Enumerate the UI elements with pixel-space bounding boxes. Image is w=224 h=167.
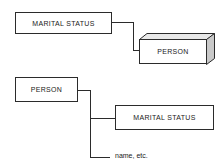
connector-top-horizontal-1 <box>112 22 134 23</box>
diagram-canvas: MARITAL STATUS PERSON PERSON MARITAL STA… <box>0 0 224 167</box>
connector-top-vertical <box>133 22 134 50</box>
box-label: MARITAL STATUS <box>133 114 195 121</box>
box-person-bottom[interactable]: PERSON <box>15 77 78 102</box>
box-label: PERSON <box>31 86 62 93</box>
box-marital-status-bottom[interactable]: MARITAL STATUS <box>115 105 214 130</box>
box-3d-front-face: PERSON <box>139 39 207 64</box>
box-label: PERSON <box>157 48 188 55</box>
box-label: MARITAL STATUS <box>32 20 94 27</box>
connector-bottom-branch-marital <box>90 118 116 119</box>
box-person-3d[interactable]: PERSON <box>139 33 215 65</box>
connector-bottom-branch-leaf <box>90 157 110 158</box>
box-3d-right-face <box>206 33 215 65</box>
leaf-label-name-etc: name, etc. <box>115 152 148 159</box>
connector-bottom-trunk <box>90 90 91 157</box>
box-marital-status-top[interactable]: MARITAL STATUS <box>15 12 112 34</box>
